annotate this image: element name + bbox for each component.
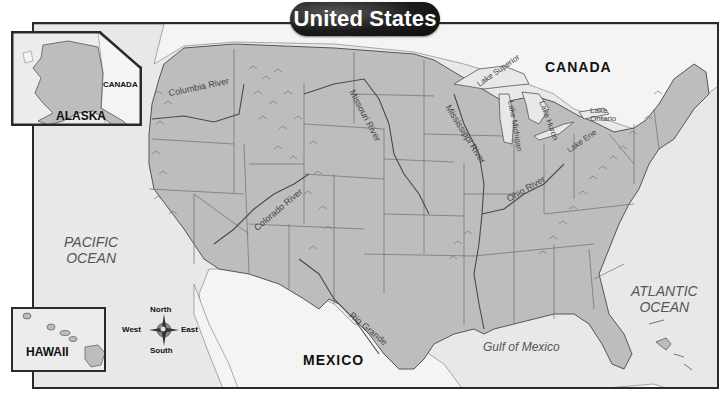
compass-south-label: South	[150, 346, 173, 355]
lake-ontario-label: Lake Ontario	[590, 107, 616, 123]
map-title: United States	[290, 2, 440, 36]
pacific-ocean-line1: PACIFIC	[64, 234, 118, 250]
hawaii-label: HAWAII	[26, 345, 69, 359]
alaska-inset-canada-label: CANADA	[103, 80, 138, 89]
atlantic-ocean-line2: OCEAN	[631, 299, 698, 315]
alaska-label: ALASKA	[56, 109, 106, 123]
pacific-ocean-line2: OCEAN	[64, 250, 118, 266]
hawaii-inset	[11, 307, 106, 372]
canada-label: CANADA	[545, 59, 612, 75]
gulf-of-mexico-label: Gulf of Mexico	[483, 340, 560, 354]
atlantic-ocean-line1: ATLANTIC	[631, 283, 698, 299]
pacific-ocean-label: PACIFIC OCEAN	[64, 234, 118, 266]
compass-rose-icon	[148, 313, 180, 347]
lake-ontario-line2: Ontario	[590, 115, 616, 123]
compass-west-label: West	[122, 325, 141, 334]
atlantic-ocean-label: ATLANTIC OCEAN	[631, 283, 698, 315]
mexico-label: MEXICO	[303, 352, 364, 368]
compass-east-label: East	[181, 325, 198, 334]
